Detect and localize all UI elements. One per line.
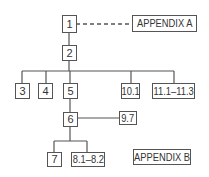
- node-9-7: 9.7: [119, 111, 137, 125]
- node-11-1-11-3: 11.1–11.3: [152, 83, 195, 99]
- node-label: 11.1–11.3: [153, 86, 193, 97]
- node-3: 3: [15, 83, 30, 99]
- node-label: APPENDIX B: [134, 152, 190, 163]
- node-label: 8.1–8.2: [72, 154, 103, 165]
- node-8-1-8-2: 8.1–8.2: [71, 152, 105, 167]
- node-label: 7: [51, 154, 57, 165]
- node-appendix-a: APPENDIX A: [132, 15, 197, 32]
- node-label: 2: [66, 48, 72, 59]
- node-label: 3: [19, 86, 25, 97]
- node-label: 1: [66, 19, 72, 30]
- node-label: APPENDIX A: [137, 18, 193, 29]
- node-10-1: 10.1: [121, 83, 140, 99]
- node-label: 6: [67, 114, 73, 125]
- node-label: 10.1: [121, 86, 139, 97]
- node-4: 4: [38, 83, 53, 99]
- node-5: 5: [63, 83, 78, 99]
- node-label: 4: [42, 86, 48, 97]
- node-7: 7: [47, 152, 62, 167]
- node-appendix-b: APPENDIX B: [133, 149, 191, 165]
- node-6: 6: [63, 112, 78, 127]
- node-label: 5: [67, 86, 73, 97]
- node-label: 9.7: [121, 113, 134, 124]
- node-1: 1: [62, 15, 77, 33]
- node-2: 2: [62, 45, 77, 61]
